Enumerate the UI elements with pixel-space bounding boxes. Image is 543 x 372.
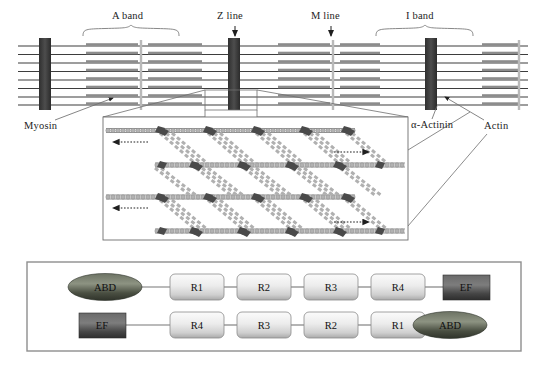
band-brackets <box>83 25 473 36</box>
label-myosin: Myosin <box>24 120 57 131</box>
label-m-line: M line <box>311 10 340 21</box>
repeat-label-top-r4: R4 <box>392 282 405 293</box>
z-line-markers <box>39 38 437 110</box>
m-line-markers <box>141 40 519 110</box>
band-pointer-arrows <box>235 26 331 36</box>
actin-leader <box>445 97 484 120</box>
figure-root: ABD R1 R2 R3 R4 EF EF R4 R3 R2 R1 ABD A … <box>0 0 543 372</box>
bottom-panel-dimer: ABD R1 R2 R3 R4 EF EF R4 R3 R2 R1 ABD <box>27 262 521 351</box>
ef-label-top: EF <box>460 282 472 293</box>
i-band-bracket <box>376 25 473 36</box>
label-actin: Actin <box>484 120 508 131</box>
abd-label-top: ABD <box>94 282 117 293</box>
label-z-line: Z line <box>217 10 243 21</box>
z-line-1 <box>39 38 51 110</box>
diagram-canvas: ABD R1 R2 R3 R4 EF EF R4 R3 R2 R1 ABD <box>0 0 543 372</box>
abd-label-bottom: ABD <box>439 320 462 331</box>
repeat-label-bottom-r2: R2 <box>325 320 337 331</box>
repeat-label-bottom-r3: R3 <box>258 320 270 331</box>
z-line-2 <box>228 38 240 110</box>
inset-panel <box>103 117 408 240</box>
repeat-label-top-r1: R1 <box>191 282 203 293</box>
z-line-3 <box>425 38 437 110</box>
label-i-band: I band <box>406 10 434 21</box>
repeat-label-top-r2: R2 <box>258 282 270 293</box>
myosin-thick-filaments <box>86 43 520 105</box>
repeat-label-bottom-r4: R4 <box>191 320 204 331</box>
label-alpha-actinin: α-Actinin <box>411 119 453 130</box>
label-a-band: A band <box>112 10 143 21</box>
a-band-bracket <box>83 25 179 36</box>
repeat-label-top-r3: R3 <box>325 282 337 293</box>
repeat-label-bottom-r1: R1 <box>392 320 404 331</box>
ef-label-bottom: EF <box>96 320 108 331</box>
